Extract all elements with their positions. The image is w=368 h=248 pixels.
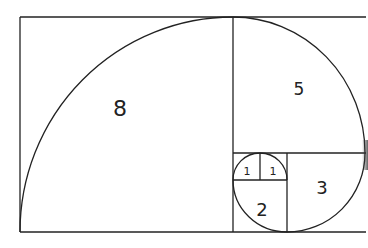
right-edge-shadow-upper bbox=[362, 140, 368, 160]
label-5: 5 bbox=[294, 79, 305, 99]
label-3: 3 bbox=[316, 177, 327, 198]
label-8: 8 bbox=[113, 96, 127, 121]
fibonacci-spiral-diagram: 8 5 3 2 1 1 bbox=[0, 0, 368, 248]
label-1a: 1 bbox=[244, 165, 251, 178]
label-1b: 1 bbox=[270, 165, 277, 178]
right-edge-shadow-lower bbox=[362, 160, 368, 170]
label-2: 2 bbox=[256, 199, 267, 220]
spiral-arc-8 bbox=[20, 17, 233, 232]
